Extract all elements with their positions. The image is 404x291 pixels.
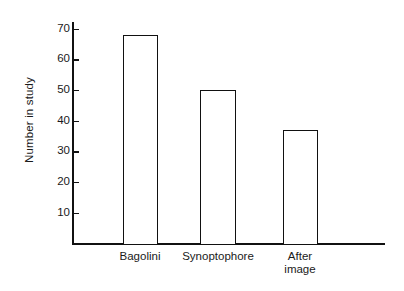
- y-axis-tick-mark: [73, 59, 79, 60]
- bar-chart: Number in study 10203040506070 BagoliniS…: [0, 0, 404, 291]
- y-axis-tick-label: 30: [48, 145, 70, 157]
- y-axis-tick-label: 50: [48, 84, 70, 96]
- x-axis-label-after-image: Afterimage: [245, 250, 355, 276]
- y-axis-tick-label: 40: [48, 115, 70, 127]
- bar-after-image: [283, 130, 319, 245]
- y-axis-line: [72, 22, 74, 245]
- y-axis-tick-mark: [73, 213, 79, 214]
- y-axis-tick-mark: [73, 90, 79, 91]
- bar-bagolini: [123, 35, 159, 245]
- y-axis-tick-mark: [73, 121, 79, 122]
- bar-synoptophore: [200, 90, 236, 245]
- y-axis-tick-label: 60: [48, 53, 70, 65]
- y-axis-tick-mark: [73, 182, 79, 183]
- y-axis-tick-label: 10: [48, 207, 70, 219]
- plot-area: 10203040506070 BagoliniSynoptophoreAfter…: [0, 0, 404, 291]
- y-axis-tick-mark: [73, 151, 79, 152]
- x-axis-label-line: image: [245, 263, 355, 276]
- x-axis-label-line: After: [288, 250, 312, 262]
- y-axis-tick-mark: [73, 29, 79, 30]
- x-axis-label-line: Bagolini: [120, 250, 161, 262]
- x-axis-label-line: Synoptophore: [182, 250, 254, 262]
- y-axis-tick-label: 70: [48, 23, 70, 35]
- y-axis-tick-label: 20: [48, 176, 70, 188]
